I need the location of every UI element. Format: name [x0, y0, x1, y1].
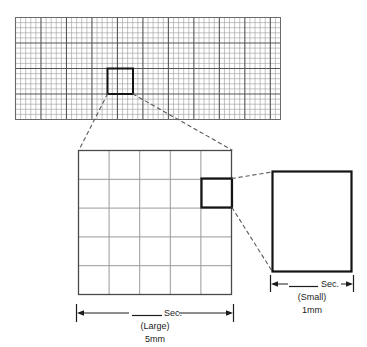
small-size-label: 1mm [302, 305, 322, 315]
large-qualifier-label: (Large) [140, 321, 169, 331]
small-qualifier-label: (Small) [298, 292, 327, 302]
large-size-label: 5mm [145, 334, 165, 344]
small-measure-label: Sec. [321, 279, 339, 289]
large-measure-label: Sec. [164, 308, 182, 318]
ecg-paper-strip [16, 18, 281, 120]
figure-canvas: Sec. (Large) 5mm Sec. (Small) 1mm [0, 0, 367, 347]
